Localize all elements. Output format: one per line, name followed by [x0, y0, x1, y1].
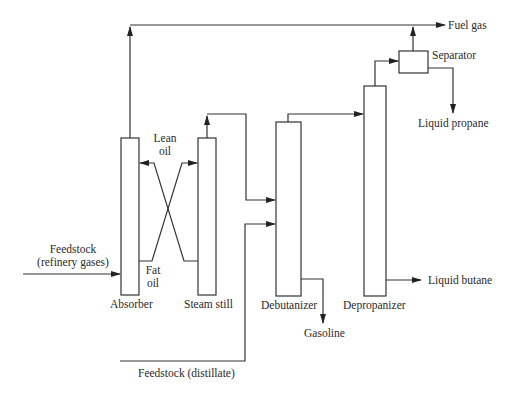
debutanizer-label: Debutanizer: [261, 298, 317, 312]
liquid-butane-label: Liquid butane: [428, 273, 492, 287]
feed-gases-label-2: (refinery gases): [28, 255, 118, 269]
depropanizer-column: [364, 86, 386, 296]
lean-oil-line: [140, 163, 198, 261]
depropanizer-label: Depropanizer: [343, 298, 406, 312]
liquid-propane-label: Liquid propane: [418, 116, 489, 130]
fuel-gas-label: Fuel gas: [448, 18, 487, 32]
steam-still-to-debutanizer: [207, 114, 275, 200]
fat-oil-label-1: Fat: [133, 263, 173, 277]
absorber-label: Absorber: [110, 297, 153, 311]
depropanizer-overhead: [375, 61, 398, 86]
steam-still-label: Steam still: [184, 297, 233, 311]
gasoline-label: Gasoline: [304, 326, 345, 340]
liquid-propane-line: [428, 68, 453, 113]
debutanizer-column: [276, 122, 301, 296]
lean-oil-label-2: oil: [145, 144, 185, 158]
feed-distillate-label: Feedstock (distillate): [138, 366, 235, 380]
fat-oil-label-2: oil: [133, 276, 173, 290]
feed-gases-label-1: Feedstock: [28, 242, 118, 256]
lean-oil-label-1: Lean: [145, 131, 185, 145]
debutanizer-overhead: [288, 114, 363, 122]
fat-oil-line: [139, 163, 197, 261]
separator-label: Separator: [432, 48, 476, 62]
steam-still-column: [198, 138, 216, 295]
separator-vessel: [399, 51, 428, 73]
